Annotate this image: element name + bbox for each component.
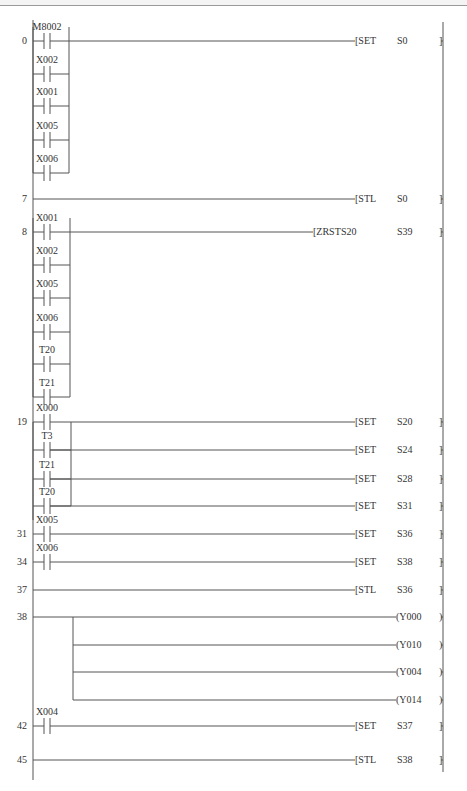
step-number: 42 (17, 720, 27, 731)
step-number: 37 (17, 584, 27, 595)
contact-label: X006 (36, 312, 58, 323)
instruction-operand: S38 (397, 556, 413, 567)
contact-label: T21 (39, 377, 55, 388)
contact-label: X005 (36, 120, 58, 131)
output-coil-icon: (Y010 (396, 639, 422, 651)
instruction-op: [STL (355, 193, 376, 204)
contact-label: T20 (39, 486, 55, 497)
instruction-op: [SET (355, 473, 376, 484)
step-number: 19 (17, 416, 27, 427)
instruction-op: [SET (355, 500, 376, 511)
contact-label: T21 (39, 459, 55, 470)
instruction-operand: S20 (397, 416, 413, 427)
contact-label: T20 (39, 344, 55, 355)
step-number: 8 (22, 226, 27, 237)
output-coil-icon: (Y000 (396, 611, 422, 623)
step-number: 38 (17, 611, 27, 622)
contact-label: X001 (36, 86, 58, 97)
contact-label: X002 (36, 54, 58, 65)
instruction-op: [SET (355, 35, 376, 46)
instruction-op: [ZRST (313, 226, 341, 237)
contact-label: X001 (36, 212, 58, 223)
instruction-op: [STL (355, 584, 376, 595)
contact-label: X004 (36, 706, 58, 717)
step-number: 34 (17, 556, 27, 567)
instruction-operand: S20 (341, 226, 357, 237)
contact-label: X000 (36, 402, 58, 413)
instruction-operand: S24 (397, 444, 413, 455)
step-number: 45 (17, 754, 27, 765)
output-coil-icon: (Y014 (396, 694, 422, 706)
instruction-operand: S0 (397, 193, 408, 204)
instruction-operand: S38 (397, 754, 413, 765)
instruction-operand: S36 (397, 584, 413, 595)
instruction-op: [STL (355, 754, 376, 765)
instruction-operand: S36 (397, 528, 413, 539)
contact-label: M8002 (33, 21, 62, 32)
contact-label: X002 (36, 245, 58, 256)
step-number: 7 (22, 193, 27, 204)
step-number: 0 (22, 35, 27, 46)
contact-label: X006 (36, 542, 58, 553)
instruction-op: [SET (355, 528, 376, 539)
instruction-op: [SET (355, 416, 376, 427)
ladder-diagram: 0M8002X002X001X005X006[SETS0]7[STLS0]8X0… (0, 0, 467, 791)
instruction-operand: S37 (397, 720, 413, 731)
contact-label: X005 (36, 278, 58, 289)
instruction-operand: S39 (397, 226, 413, 237)
step-number: 31 (17, 528, 27, 539)
contact-label: T3 (41, 430, 52, 441)
contact-label: X005 (36, 514, 58, 525)
instruction-op: [SET (355, 444, 376, 455)
instruction-op: [SET (355, 720, 376, 731)
instruction-operand: S31 (397, 500, 413, 511)
contact-label: X006 (36, 153, 58, 164)
output-coil-icon: (Y004 (396, 666, 422, 678)
instruction-operand: S0 (397, 35, 408, 46)
instruction-op: [SET (355, 556, 376, 567)
instruction-operand: S28 (397, 473, 413, 484)
